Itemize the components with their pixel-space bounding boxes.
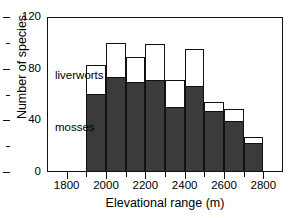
x-tick-2700 [244,172,245,177]
annotation-liverworts: liverworts [55,69,104,81]
y-tick-60 [6,95,11,96]
x-tick-2200 [145,172,146,179]
bar-segment-mosses [107,77,125,171]
bars-layer [47,17,283,172]
bar-2300-2400 [165,80,185,172]
bar-2500-2600 [204,102,224,172]
y-tick-label-80: 80 [1,63,41,75]
bar-segment-mosses [205,111,223,171]
y-tick-label-0: 0 [1,166,41,178]
y-axis-title: Number of species [15,0,29,152]
x-tick-1800 [67,172,68,179]
bar-segment-mosses [166,107,184,171]
x-axis-title: Elevational range (m) [47,196,283,210]
x-tick-2600 [224,172,225,179]
x-tick-2800 [263,172,264,179]
x-tick-2500 [204,172,205,177]
figure-root: Number of species 04080120 liverworts mo… [0,0,293,218]
y-tick-label-120: 120 [1,11,41,23]
bar-2100-2200 [126,57,146,172]
bar-2700-2800 [244,137,264,172]
bar-segment-mosses [225,121,243,171]
bar-segment-mosses [127,82,145,171]
bar-2400-2500 [185,49,205,172]
bar-2000-2100 [106,43,126,172]
x-tick-2400 [185,172,186,179]
bar-2600-2700 [224,109,244,172]
x-tick-label-2800: 2800 [240,180,286,192]
x-tick-2000 [106,172,107,179]
y-tick-100 [6,43,11,44]
x-tick-1900 [86,172,87,177]
bar-segment-mosses [245,143,263,171]
y-tick-20 [6,146,11,147]
y-tick-label-40: 40 [1,114,41,126]
bar-segment-mosses [146,80,164,171]
annotation-mosses: mosses [55,121,95,133]
bar-2200-2300 [145,44,165,172]
x-tick-2300 [165,172,166,177]
x-tick-2100 [126,172,127,177]
bar-segment-mosses [186,86,204,171]
